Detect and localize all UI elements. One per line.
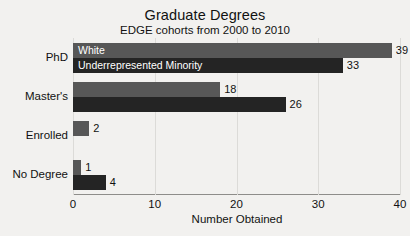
x-tick-label: 30 xyxy=(312,198,325,210)
bar-underrepresented-minority xyxy=(73,97,286,112)
bar-value-label: 1 xyxy=(81,160,91,175)
bar-value-label: 4 xyxy=(106,175,116,190)
bar-row: 18 xyxy=(73,82,400,97)
category-label-phd: PhD xyxy=(0,51,68,63)
bar-underrepresented-minority xyxy=(73,175,106,190)
x-tick-label: 20 xyxy=(230,198,243,210)
chart-title: Graduate Degrees xyxy=(0,7,410,23)
bar-group: 39White33Underrepresented Minority xyxy=(73,43,400,73)
bar-white xyxy=(73,82,220,97)
bar-row: 1 xyxy=(73,160,400,175)
bar-row: 4 xyxy=(73,175,400,190)
x-tick-label: 10 xyxy=(148,198,161,210)
bar-group: 2 xyxy=(73,121,400,151)
category-axis-labels: PhDMaster'sEnrolledNo Degree xyxy=(0,38,68,195)
x-tick-label: 40 xyxy=(394,198,407,210)
bar-value-label: 33 xyxy=(343,58,359,73)
bar-value-label: 18 xyxy=(220,82,236,97)
bar-row: 26 xyxy=(73,97,400,112)
x-axis-title: Number Obtained xyxy=(73,213,401,225)
bar-value-label: 26 xyxy=(286,97,302,112)
category-label-master-s: Master's xyxy=(0,90,68,102)
bar-row xyxy=(73,136,400,151)
graduate-degrees-bar-chart: Graduate Degrees EDGE cohorts from 2000 … xyxy=(0,0,410,236)
legend-label-underrepresented-minority: Underrepresented Minority xyxy=(78,58,202,73)
bar-group: 1826 xyxy=(73,82,400,112)
bar-group: 14 xyxy=(73,160,400,190)
plot-area: 39White33Underrepresented Minority182621… xyxy=(73,38,400,195)
bar-row: 39White xyxy=(73,43,400,58)
bar-row: 33Underrepresented Minority xyxy=(73,58,400,73)
category-label-enrolled: Enrolled xyxy=(0,129,68,141)
bar-white xyxy=(73,121,89,136)
bar-white xyxy=(73,160,81,175)
bar-value-label: 2 xyxy=(89,121,99,136)
legend-label-white: White xyxy=(78,43,105,58)
category-label-no-degree: No Degree xyxy=(0,168,68,180)
chart-subtitle: EDGE cohorts from 2000 to 2010 xyxy=(0,24,410,36)
gridline xyxy=(400,38,401,195)
bar-white xyxy=(73,43,392,58)
bar-value-label: 39 xyxy=(392,43,408,58)
bar-row: 2 xyxy=(73,121,400,136)
x-tick-label: 0 xyxy=(70,198,76,210)
